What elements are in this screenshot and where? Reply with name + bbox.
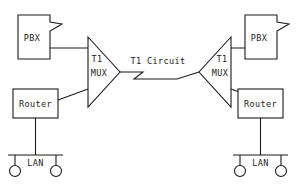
router-left: Router (13, 89, 58, 118)
lan-left: LAN (8, 155, 63, 177)
lan-right-label: LAN (252, 158, 269, 168)
mux-right-label-line1: T1 (216, 54, 227, 64)
t1-circuit-link: T1 Circuit (120, 56, 199, 79)
mux-left: T1 MUX (88, 37, 120, 107)
lan-right: LAN (233, 155, 288, 177)
pbx-left: PBX (18, 15, 62, 59)
lan-left-label: LAN (27, 158, 44, 168)
diagram-canvas: PBX T1 MUX Router LAN (0, 0, 296, 185)
router-right: Router (238, 89, 283, 118)
t1-circuit-label: T1 Circuit (130, 56, 185, 66)
router-right-label: Router (244, 99, 277, 109)
pbx-right-label: PBX (251, 33, 268, 43)
mux-right-label-line2: MUX (212, 68, 229, 78)
lan-left-host-2 (51, 166, 62, 177)
router-left-label: Router (19, 99, 52, 109)
pbx-left-label: PBX (24, 33, 41, 43)
t1-circuit-line (120, 72, 199, 79)
mux-left-label-line1: T1 (91, 54, 102, 64)
link-router-left-to-mux-left (58, 89, 88, 100)
lan-right-host-2 (276, 166, 287, 177)
lan-right-host-1 (235, 166, 246, 177)
network-diagram: PBX T1 MUX Router LAN (0, 0, 296, 185)
mux-right: T1 MUX (199, 37, 231, 107)
pbx-right: PBX (245, 15, 289, 59)
mux-left-label-line2: MUX (91, 68, 108, 78)
lan-left-host-1 (10, 166, 21, 177)
